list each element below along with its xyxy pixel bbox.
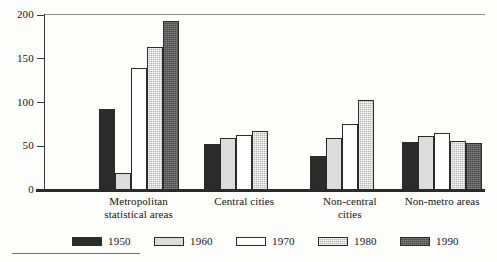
bar-1970-2 xyxy=(236,135,252,190)
legend-item-1990[interactable]: 1990 xyxy=(400,231,459,245)
y-axis-tick-label-wrap: 150 xyxy=(0,53,34,64)
legend-item-1980[interactable]: 1980 xyxy=(318,231,377,245)
y-axis-tick-label-wrap: 0 xyxy=(0,184,34,195)
legend-swatch-1980 xyxy=(318,237,348,246)
y-axis-tick-label: 200 xyxy=(4,9,34,20)
bar-1950-1 xyxy=(99,109,115,190)
bar-1950-4 xyxy=(402,142,418,190)
y-axis-tick xyxy=(37,102,44,103)
category-label-line: cities xyxy=(285,208,415,221)
y-axis-tick-label: 50 xyxy=(4,140,34,151)
bar-group xyxy=(402,15,482,190)
bar-group xyxy=(310,15,390,190)
chart-legend: 19501960197019801990 xyxy=(44,231,464,247)
category-label-line: Non-metro areas xyxy=(377,195,497,208)
bar-1980-3 xyxy=(358,100,374,190)
bar-group xyxy=(99,15,179,190)
legend-label: 1970 xyxy=(272,234,295,248)
bar-1950-3 xyxy=(310,156,326,190)
y-axis-tick-label: 150 xyxy=(4,53,34,64)
bar-1980-1 xyxy=(147,47,163,190)
legend-swatch-1970 xyxy=(236,237,266,246)
category-label-line: statistical areas xyxy=(74,208,204,221)
y-axis-tick xyxy=(37,58,44,59)
legend-swatch-1990 xyxy=(400,237,430,246)
x-axis-baseline xyxy=(36,189,485,192)
y-axis-tick xyxy=(37,146,44,147)
bar-1960-3 xyxy=(326,138,342,190)
bar-1960-4 xyxy=(418,136,434,190)
y-axis-tick-label: 100 xyxy=(4,97,34,108)
bar-1960-1 xyxy=(115,173,131,191)
legend-item-1960[interactable]: 1960 xyxy=(154,231,213,245)
bar-1990-4 xyxy=(466,143,482,190)
category-label: Non-metro areas xyxy=(377,195,497,208)
bar-1950-2 xyxy=(204,144,220,190)
bar-1980-2 xyxy=(252,131,268,190)
bar-1960-2 xyxy=(220,138,236,190)
bar-1970-4 xyxy=(434,133,450,190)
legend-swatch-1960 xyxy=(154,237,184,246)
y-axis-tick-label-wrap: 200 xyxy=(0,9,34,20)
legend-swatch-1950 xyxy=(72,237,102,246)
legend-label: 1990 xyxy=(436,234,459,248)
bar-1970-1 xyxy=(131,68,147,191)
bar-1980-4 xyxy=(450,141,466,190)
y-axis-tick-label: 0 xyxy=(4,184,34,195)
y-axis-tick-label-wrap: 50 xyxy=(0,140,34,151)
y-axis-tick xyxy=(37,15,44,16)
legend-item-1970[interactable]: 1970 xyxy=(236,231,295,245)
legend-item-1950[interactable]: 1950 xyxy=(72,231,131,245)
bar-1970-3 xyxy=(342,124,358,191)
legend-label: 1960 xyxy=(190,234,213,248)
footnote-separator-rule xyxy=(12,253,140,254)
bar-1990-1 xyxy=(163,21,179,190)
bar-chart-figure: 050100150200 Metropolitanstatistical are… xyxy=(0,0,497,262)
legend-label: 1980 xyxy=(354,234,377,248)
bar-group xyxy=(204,15,284,190)
y-axis-tick-label-wrap: 100 xyxy=(0,97,34,108)
legend-label: 1950 xyxy=(108,234,131,248)
plot-area xyxy=(44,15,484,190)
